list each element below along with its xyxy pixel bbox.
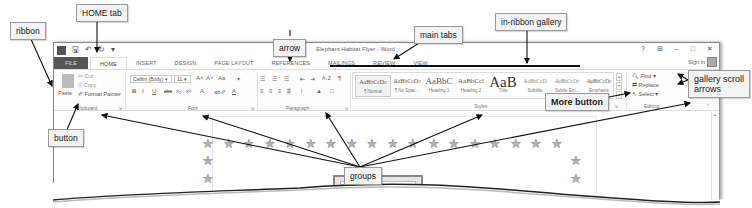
title-bar: 🖫 ↶ ↻ ▾ Elephant Habitat Flyer - Word ? … <box>54 43 719 57</box>
scroll-up-icon[interactable]: ▴ <box>712 112 717 117</box>
styles-launcher-icon[interactable]: ⇲ <box>614 103 618 109</box>
gallery-scroll-up-button[interactable]: ▴ <box>616 73 622 81</box>
shrink-font-button[interactable]: A˅ <box>206 75 214 81</box>
superscript-button[interactable]: x² <box>186 88 191 94</box>
star-icon: ★ <box>202 154 214 167</box>
style-sample: AaBbC <box>421 75 457 88</box>
sign-in-link[interactable]: Sign in <box>688 59 705 65</box>
star-icon: ★ <box>448 137 460 150</box>
star-icon: ★ <box>489 137 501 150</box>
numbering-button[interactable]: ☰ <box>272 75 277 82</box>
style-no-spacing[interactable]: AaBbCcDc ¶ No Spac... <box>389 75 425 97</box>
font-launcher-icon[interactable]: ⇲ <box>250 105 254 111</box>
save-icon[interactable]: 🖫 <box>72 45 79 55</box>
align-center-button[interactable]: ≡ <box>269 88 273 94</box>
find-label: Find <box>641 73 652 79</box>
style-sample: AaB <box>485 75 521 88</box>
ribbon-display-icon[interactable]: ⊞ <box>657 45 663 53</box>
clipboard-launcher-icon[interactable]: ⇲ <box>118 105 122 111</box>
style-heading-2[interactable]: AaBbCcl Heading 2 <box>453 75 489 97</box>
bold-button[interactable]: B <box>132 88 136 94</box>
highlight-button[interactable]: ab✐ <box>214 88 226 95</box>
tab-file[interactable]: FILE <box>54 57 88 69</box>
clipboard-group: Paste ✂ Cut ⎘ Copy ✐ Format Painter Clip… <box>54 70 124 112</box>
style-heading-1[interactable]: AaBbC Heading 1 <box>421 75 457 97</box>
collapse-ribbon-icon[interactable]: ⌃ <box>706 103 710 109</box>
show-marks-button[interactable]: ¶ <box>338 75 341 81</box>
style-sample: AaBbCcDc <box>356 76 390 89</box>
style-name: ¶ No Spac... <box>389 88 425 93</box>
italic-button[interactable]: I <box>142 88 144 94</box>
find-button[interactable]: 🔍︎ Find ▾ <box>632 73 656 79</box>
clear-formatting-icon[interactable]: ✦ <box>236 75 241 82</box>
window-title: Elephant Habitat Flyer - Word <box>316 46 395 52</box>
callout-arrow: arrow <box>273 39 306 57</box>
undo-icon[interactable]: ↶ <box>85 45 92 55</box>
star-icon: ★ <box>325 137 337 150</box>
font-color-button[interactable]: A <box>232 88 236 94</box>
multilevel-list-button[interactable]: ☰ <box>284 75 289 82</box>
shading-button[interactable]: ▲ <box>316 88 322 94</box>
customize-icon[interactable]: ▾ <box>111 45 115 55</box>
paragraph-group-label: Paragraph <box>286 105 309 111</box>
help-icon[interactable]: ? <box>641 45 645 53</box>
grow-font-button[interactable]: A˄ <box>196 75 204 81</box>
borders-button[interactable]: □ <box>330 88 334 94</box>
style-sample: AaBbCcl <box>453 75 489 88</box>
tab-review[interactable]: REVIEW <box>364 57 404 69</box>
align-left-button[interactable]: ≡ <box>260 88 264 94</box>
restore-icon[interactable]: □ <box>691 45 695 53</box>
more-button[interactable]: ▾ <box>616 91 622 99</box>
tab-design[interactable]: DESIGN <box>166 57 206 69</box>
tab-page-layout[interactable]: PAGE LAYOUT <box>205 57 262 69</box>
paste-icon[interactable] <box>62 74 74 88</box>
tab-view[interactable]: VIEW <box>404 57 436 69</box>
style-sample: AaBbCcDc <box>549 75 585 88</box>
line-spacing-button[interactable]: ↕ <box>300 88 303 94</box>
replace-button[interactable]: ⇄ Replace <box>632 82 659 88</box>
underline-button[interactable]: U <box>152 88 156 94</box>
tab-references[interactable]: REFERENCES <box>262 57 319 69</box>
callout-button: button <box>48 129 84 147</box>
font-size-dropdown[interactable]: 11 ▾ <box>174 75 191 83</box>
avatar[interactable] <box>707 57 717 67</box>
increase-indent-button[interactable]: ⇥ <box>310 75 315 82</box>
gallery-scroll-down-button[interactable]: ▾ <box>616 82 622 90</box>
redo-icon[interactable]: ↻ <box>98 45 105 55</box>
star-icon: ★ <box>243 137 255 150</box>
font-name-dropdown[interactable]: Calibri (Body) ▾ <box>130 75 172 83</box>
replace-label: Replace <box>639 82 659 88</box>
font-name-value: Calibri (Body) <box>133 76 163 82</box>
justify-button[interactable]: ≡ <box>287 88 291 94</box>
style-normal[interactable]: AaBbCcDc ¶ Normal <box>355 75 391 97</box>
star-icon: ★ <box>407 137 419 150</box>
window-controls: ? ⊞ – □ ✕ <box>641 45 713 53</box>
format-painter-button[interactable]: ✐ Format Painter <box>78 91 121 97</box>
style-sample: AaBbCcDc <box>389 75 425 88</box>
tab-mailings[interactable]: MAILINGS <box>319 57 364 69</box>
change-case-button[interactable]: Aa <box>218 75 225 81</box>
text-effects-button[interactable]: A <box>200 88 204 94</box>
bullets-button[interactable]: ☰ <box>260 75 265 82</box>
editing-group-label: Editing <box>644 103 659 109</box>
strikethrough-button[interactable]: abc <box>164 88 172 94</box>
group-divider <box>350 73 351 109</box>
minimize-icon[interactable]: – <box>675 45 679 53</box>
select-button[interactable]: ↖ Select ▾ <box>632 91 658 97</box>
cut-button[interactable]: ✂ Cut <box>78 73 93 79</box>
paste-button[interactable]: Paste <box>58 90 72 96</box>
subscript-button[interactable]: x₂ <box>176 88 181 94</box>
align-right-button[interactable]: ≡ <box>278 88 282 94</box>
tab-home[interactable]: HOME <box>90 57 127 69</box>
tab-insert[interactable]: INSERT <box>127 57 166 69</box>
copy-button[interactable]: ⎘ Copy <box>78 82 96 89</box>
font-group-label: Font <box>188 105 198 111</box>
star-icon: ★ <box>284 137 296 150</box>
decrease-indent-button[interactable]: ⇤ <box>300 75 305 82</box>
style-name: ¶ Normal <box>356 89 390 94</box>
close-icon[interactable]: ✕ <box>707 45 713 53</box>
style-title[interactable]: AaB Title <box>485 75 521 97</box>
callout-in-ribbon-gallery: in-ribbon gallery <box>495 13 567 31</box>
paragraph-launcher-icon[interactable]: ⇲ <box>344 105 348 111</box>
sort-button[interactable]: A↓Z <box>322 75 331 81</box>
